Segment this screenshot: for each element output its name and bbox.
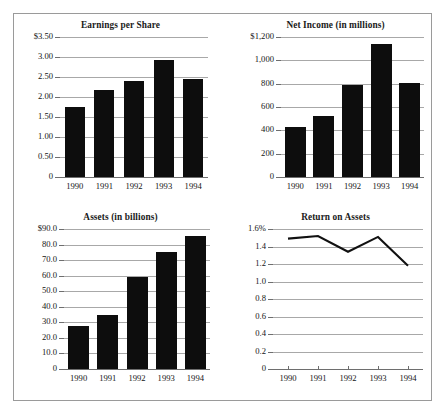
y-axis-tick-label: $90.0 [24, 224, 57, 233]
x-axis-tick-label: 1992 [338, 182, 367, 191]
y-axis-tick-label: 20.0 [24, 333, 57, 342]
y-axis-tick [59, 322, 64, 323]
y-axis-tick [59, 245, 64, 246]
y-axis-tick-label: 1.00 [23, 132, 53, 141]
x-axis-tick-label: 1991 [303, 374, 333, 383]
x-axis-tick [318, 366, 319, 369]
gridline [281, 60, 424, 61]
x-axis-tick-label: 1994 [393, 374, 423, 383]
y-axis-tick-label: 0 [239, 172, 274, 181]
y-axis-tick [55, 117, 60, 118]
y-axis-tick [59, 260, 64, 261]
y-axis-tick-label: 1.4 [240, 242, 266, 251]
x-axis-tick [408, 366, 409, 369]
x-axis-tick-label: 1990 [281, 182, 310, 191]
gridline [281, 37, 424, 38]
x-axis-line [60, 177, 208, 178]
y-axis-tick-label: $1,200 [239, 32, 274, 41]
y-axis-tick [59, 276, 64, 277]
y-axis-tick [55, 137, 60, 138]
x-axis-tick-label: 1992 [333, 374, 363, 383]
y-axis-tick-label: 50.0 [24, 286, 57, 295]
y-axis-tick [55, 37, 60, 38]
y-axis-tick [268, 369, 273, 370]
y-axis-tick-label: 70.0 [24, 255, 57, 264]
y-axis-tick-label: 30.0 [24, 317, 57, 326]
chart-panel-assets: Assets (in billions) 010.020.030.040.050… [28, 212, 213, 397]
gridline [60, 77, 208, 78]
y-axis-tick-label: 3.00 [23, 52, 53, 61]
y-axis-tick [59, 353, 64, 354]
y-axis-tick-label: $3.50 [23, 32, 53, 41]
bar [183, 79, 203, 177]
chart-panel-net-income: Net Income (in millions) 02004006008001,… [243, 20, 428, 200]
y-axis-tick [55, 157, 60, 158]
y-axis-tick-label: 0.4 [240, 329, 266, 338]
y-axis-tick-label: 0 [240, 364, 266, 373]
y-axis-tick [276, 154, 281, 155]
bar [94, 90, 114, 177]
x-axis-tick [288, 366, 289, 369]
bar [285, 127, 306, 177]
plot-area-earnings-per-share: 00.501.001.502.002.503.00$3.501990199119… [60, 37, 208, 177]
y-axis-tick [55, 57, 60, 58]
bar [127, 277, 148, 369]
x-axis-tick-label: 1991 [93, 374, 122, 383]
chart-title-net-income: Net Income (in millions) [243, 20, 428, 30]
y-axis-tick [55, 177, 60, 178]
bar [97, 315, 118, 369]
x-axis-tick [348, 366, 349, 369]
y-axis-tick [59, 369, 64, 370]
y-axis-tick [55, 77, 60, 78]
y-axis-tick-label: 400 [239, 125, 274, 134]
x-axis-tick-label: 1990 [64, 374, 93, 383]
y-axis-tick [276, 84, 281, 85]
bar [124, 81, 144, 177]
x-axis-tick-label: 1993 [367, 182, 396, 191]
y-axis-tick-label: 0 [23, 172, 53, 181]
x-axis-tick-label: 1991 [310, 182, 339, 191]
y-axis-tick-label: 1.2 [240, 259, 266, 268]
y-axis-tick-label: 0.6 [240, 312, 266, 321]
y-axis-tick [276, 37, 281, 38]
y-axis-tick-label: 40.0 [24, 302, 57, 311]
y-axis-tick [276, 130, 281, 131]
bar [371, 44, 392, 177]
chart-panel-earnings-per-share: Earnings per Share 00.501.001.502.002.50… [28, 20, 213, 200]
plot-area-return-on-assets: 00.20.40.60.81.01.21.41.6%19901991199219… [273, 229, 423, 369]
chart-title-assets: Assets (in billions) [28, 212, 213, 222]
x-axis-tick-label: 1990 [60, 182, 90, 191]
bar [65, 107, 85, 177]
y-axis-tick [59, 291, 64, 292]
x-axis-tick-label: 1990 [273, 374, 303, 383]
y-axis-tick-label: 60.0 [24, 271, 57, 280]
bar [156, 252, 177, 369]
x-axis-tick-label: 1994 [178, 182, 208, 191]
y-axis-tick-label: 1,000 [239, 55, 274, 64]
y-axis-tick-label: 800 [239, 79, 274, 88]
x-axis-tick-label: 1992 [119, 182, 149, 191]
y-axis-tick-label: 2.50 [23, 72, 53, 81]
y-axis-tick-label: 1.0 [240, 277, 266, 286]
x-axis-line [64, 369, 210, 370]
y-axis-tick [276, 60, 281, 61]
y-axis-tick [55, 97, 60, 98]
y-axis-tick-label: 200 [239, 149, 274, 158]
gridline [64, 229, 210, 230]
y-axis-tick-label: 1.50 [23, 112, 53, 121]
x-axis-tick-label: 1994 [395, 182, 424, 191]
gridline [60, 37, 208, 38]
x-axis-line [273, 369, 423, 370]
x-axis-line [281, 177, 424, 178]
financial-charts-figure: Earnings per Share 00.501.001.502.002.50… [0, 0, 445, 418]
x-axis-tick-label: 1993 [363, 374, 393, 383]
chart-title-return-on-assets: Return on Assets [243, 212, 428, 222]
x-axis-tick-label: 1993 [152, 374, 181, 383]
bar [154, 60, 174, 177]
y-axis-tick-label: 2.00 [23, 92, 53, 101]
y-axis-tick-label: 0 [24, 364, 57, 373]
chart-title-earnings-per-share: Earnings per Share [28, 20, 213, 30]
y-axis-tick-label: 80.0 [24, 240, 57, 249]
x-axis-tick-label: 1991 [90, 182, 120, 191]
y-axis-tick-label: 600 [239, 102, 274, 111]
